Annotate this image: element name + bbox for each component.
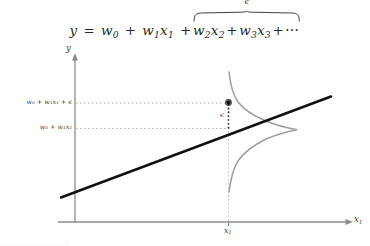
- residual-label-epsilon: ϵ: [220, 112, 224, 119]
- gridline-label-lower: w₀ + w₁x₁: [0, 124, 72, 131]
- regression-line: [61, 97, 331, 198]
- figure-root: y = w0 + w1x1 +ϵw2x2+w3x3+⋯: [0, 0, 370, 246]
- y-axis: [72, 53, 78, 222]
- x-axis-tick-label-x1: x1: [224, 227, 231, 236]
- x-axis: [58, 219, 353, 225]
- x-axis-label: x1: [354, 215, 362, 225]
- data-point-observation-core: [227, 101, 230, 104]
- y-axis-label: y: [66, 44, 71, 53]
- gridline-label-upper: w₀ + w₁x₁ + ϵ: [0, 99, 72, 106]
